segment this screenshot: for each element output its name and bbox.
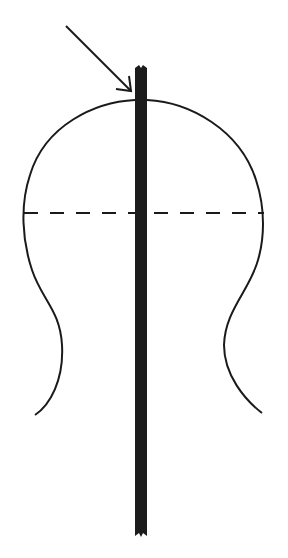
vertical-rod [135, 65, 147, 537]
head-outline-left [23, 100, 135, 415]
arrow-icon [66, 26, 131, 91]
diagram [0, 0, 288, 558]
head-outline-right [147, 100, 263, 413]
